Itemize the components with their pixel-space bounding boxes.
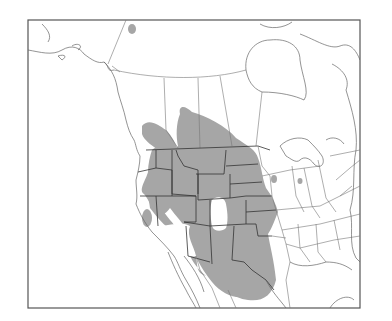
range-iowa-patch [271,175,277,183]
range-north-patch [128,24,136,34]
range-illinois-patch [298,178,303,184]
range-california-patch [142,209,152,227]
range-map [0,0,392,321]
